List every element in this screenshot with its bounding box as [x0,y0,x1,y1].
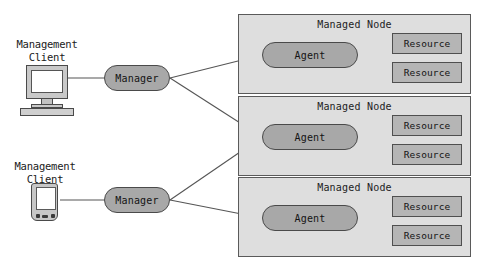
pda-button-right [51,214,55,218]
managed-node-1-resource-2-label: Resource [404,67,451,78]
managed-node-2-resource-1[interactable]: Resource [392,115,462,136]
keyboard [20,108,74,116]
pda-button-center [42,215,48,218]
managed-node-2-resource-2[interactable]: Resource [392,144,462,165]
diagram-canvas: Management Client Management Client Mana… [0,0,484,259]
managed-node-2-agent-label: Agent [294,132,325,143]
managed-node-1-title: Managed Node [239,19,470,30]
pda-handheld-icon [31,183,58,221]
managed-node-2-resource-2-label: Resource [404,149,451,160]
managed-node-1-agent[interactable]: Agent [262,42,358,68]
manager-top-node[interactable]: Manager [104,65,170,91]
managed-node-1-resource-1[interactable]: Resource [392,33,462,54]
managed-node-3-resource-1-label: Resource [404,201,451,212]
managed-node-1-resource-1-label: Resource [404,38,451,49]
managed-node-3-resource-2[interactable]: Resource [392,225,462,246]
monitor-bezel [26,65,68,99]
manager-top-label: Manager [115,73,159,84]
pda-body [31,183,58,221]
managed-node-3-agent-label: Agent [294,213,325,224]
management-client-desktop-label: Management Client [2,38,92,64]
managed-node-3-title: Managed Node [239,182,470,193]
managed-node-3-agent[interactable]: Agent [262,205,358,231]
managed-node-1-resource-2[interactable]: Resource [392,62,462,83]
managed-node-2-title: Managed Node [239,101,470,112]
managed-node-3-resource-2-label: Resource [404,230,451,241]
pda-screen [36,187,56,210]
managed-node-1-agent-label: Agent [294,50,325,61]
managed-node-2-agent[interactable]: Agent [262,124,358,150]
manager-bottom-label: Manager [115,195,159,206]
managed-node-2-resource-1-label: Resource [404,120,451,131]
monitor-screen [31,70,63,93]
pda-button-left [36,214,40,218]
desktop-computer-icon [20,65,74,117]
manager-bottom-node[interactable]: Manager [104,187,170,213]
managed-node-3-resource-1[interactable]: Resource [392,196,462,217]
